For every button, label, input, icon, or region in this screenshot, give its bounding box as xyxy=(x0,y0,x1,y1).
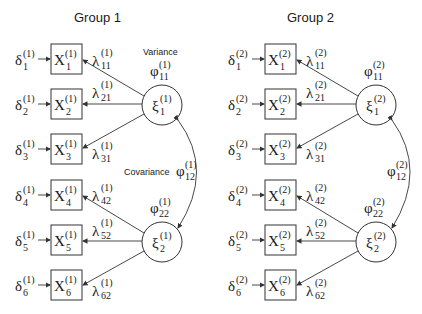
svg-text:δ: δ xyxy=(15,233,22,249)
svg-text:(1): (1) xyxy=(101,47,113,59)
svg-text:X: X xyxy=(54,52,65,68)
svg-text:(2): (2) xyxy=(315,140,327,152)
group-1-title: Group 1 xyxy=(74,10,121,25)
svg-text:δ: δ xyxy=(15,52,22,68)
error-terms-group-2: δ(2)1 δ(2)2 δ(2)3 δ(2)4 δ(2)5 δ(2)6 xyxy=(228,48,264,298)
svg-text:(1): (1) xyxy=(23,138,35,150)
svg-text:(1): (1) xyxy=(23,274,35,286)
indicators-group-2 xyxy=(265,44,296,300)
svg-text:5: 5 xyxy=(236,242,241,253)
svg-text:52: 52 xyxy=(315,230,325,241)
indicator-labels-group-1: X(1)1 X(1)2 X(1)3 X(1)4 X(1)5 X(1)6 xyxy=(54,48,77,298)
svg-text:(2): (2) xyxy=(315,277,327,289)
svg-text:X: X xyxy=(54,278,65,294)
svg-text:52: 52 xyxy=(101,230,111,241)
svg-text:(1): (1) xyxy=(65,93,77,105)
svg-text:(1): (1) xyxy=(23,93,35,105)
svg-text:22: 22 xyxy=(373,208,383,219)
factor-circle-xi2 xyxy=(142,222,182,262)
svg-text:(2): (2) xyxy=(315,217,327,229)
svg-text:λ: λ xyxy=(306,146,314,162)
svg-text:(2): (2) xyxy=(279,138,291,150)
svg-text:(1): (1) xyxy=(65,48,77,60)
group-1: Group 1 X(1)1 X(1)2 X(1)3 X(1)4 X(1)5 X(… xyxy=(15,10,197,301)
svg-text:δ: δ xyxy=(15,188,22,204)
svg-text:(2): (2) xyxy=(236,93,248,105)
svg-text:2: 2 xyxy=(236,106,241,117)
svg-text:δ: δ xyxy=(228,278,235,294)
svg-text:62: 62 xyxy=(315,290,325,301)
svg-text:(1): (1) xyxy=(23,184,35,196)
svg-text:φ: φ xyxy=(150,200,159,216)
svg-text:1: 1 xyxy=(160,106,165,117)
svg-text:4: 4 xyxy=(236,197,241,208)
svg-text:1: 1 xyxy=(280,61,285,72)
svg-text:(1): (1) xyxy=(23,229,35,241)
svg-text:(2): (2) xyxy=(315,47,327,59)
svg-text:(1): (1) xyxy=(101,217,113,229)
loading-labels-group-1: λ(1)11 λ(1)21 λ(1)31 λ(1)42 λ(1)52 λ(1)6… xyxy=(92,47,113,301)
svg-text:6: 6 xyxy=(66,287,71,298)
svg-text:(2): (2) xyxy=(315,79,327,91)
svg-text:X: X xyxy=(54,142,65,158)
svg-text:X: X xyxy=(54,188,65,204)
svg-text:21: 21 xyxy=(101,92,111,103)
svg-text:X: X xyxy=(54,97,65,113)
svg-text:11: 11 xyxy=(101,60,111,71)
svg-text:11: 11 xyxy=(373,71,383,82)
error-terms-group-1: δ(1)1 δ(1)2 δ(1)3 δ(1)4 δ(1)5 δ(1)6 xyxy=(15,48,50,298)
svg-text:φ: φ xyxy=(364,200,373,216)
svg-text:(2): (2) xyxy=(396,159,408,171)
svg-text:λ: λ xyxy=(92,53,100,69)
svg-text:(1): (1) xyxy=(159,59,171,71)
indicator-labels-group-2: X(2)1 X(2)2 X(2)3 X(2)4 X(2)5 X(2)6 xyxy=(268,48,291,298)
svg-text:3: 3 xyxy=(280,151,285,162)
svg-text:(2): (2) xyxy=(279,93,291,105)
svg-text:6: 6 xyxy=(236,287,241,298)
svg-text:31: 31 xyxy=(101,153,111,164)
svg-text:(2): (2) xyxy=(279,274,291,286)
group-2: Group 2 X(2)1 X(2)2 X(2)3 X(2)4 X(2)5 X(… xyxy=(228,10,410,301)
svg-text:1: 1 xyxy=(23,61,28,72)
svg-text:δ: δ xyxy=(228,97,235,113)
svg-text:2: 2 xyxy=(374,243,379,254)
svg-text:(1): (1) xyxy=(185,159,197,171)
svg-text:(1): (1) xyxy=(159,196,171,208)
svg-text:(2): (2) xyxy=(279,48,291,60)
svg-text:3: 3 xyxy=(23,151,28,162)
svg-text:λ: λ xyxy=(306,188,314,204)
svg-text:(1): (1) xyxy=(101,140,113,152)
svg-text:2: 2 xyxy=(23,106,28,117)
svg-text:δ: δ xyxy=(228,52,235,68)
svg-text:(2): (2) xyxy=(279,229,291,241)
svg-text:4: 4 xyxy=(66,197,71,208)
svg-text:λ: λ xyxy=(92,283,100,299)
svg-text:(2): (2) xyxy=(373,196,385,208)
svg-text:φ: φ xyxy=(387,163,396,179)
svg-text:λ: λ xyxy=(92,223,100,239)
svg-text:ξ: ξ xyxy=(152,98,159,114)
svg-text:δ: δ xyxy=(15,278,22,294)
svg-text:X: X xyxy=(54,233,65,249)
svg-text:4: 4 xyxy=(280,197,285,208)
svg-text:ξ: ξ xyxy=(152,235,159,251)
svg-text:42: 42 xyxy=(315,195,325,206)
svg-text:(1): (1) xyxy=(23,48,35,60)
svg-text:5: 5 xyxy=(280,242,285,253)
svg-text:λ: λ xyxy=(306,85,314,101)
svg-text:(1): (1) xyxy=(160,230,172,242)
svg-text:5: 5 xyxy=(23,242,28,253)
variance-label: Variance xyxy=(143,47,178,57)
svg-text:22: 22 xyxy=(159,208,169,219)
svg-text:3: 3 xyxy=(66,151,71,162)
svg-text:(2): (2) xyxy=(236,138,248,150)
svg-text:δ: δ xyxy=(228,142,235,158)
svg-text:11: 11 xyxy=(159,71,169,82)
svg-text:X: X xyxy=(268,142,279,158)
svg-text:φ: φ xyxy=(176,163,185,179)
svg-text:λ: λ xyxy=(92,85,100,101)
svg-text:1: 1 xyxy=(66,61,71,72)
svg-text:6: 6 xyxy=(23,287,28,298)
covariance-label: Covariance xyxy=(124,167,170,177)
svg-text:δ: δ xyxy=(15,97,22,113)
